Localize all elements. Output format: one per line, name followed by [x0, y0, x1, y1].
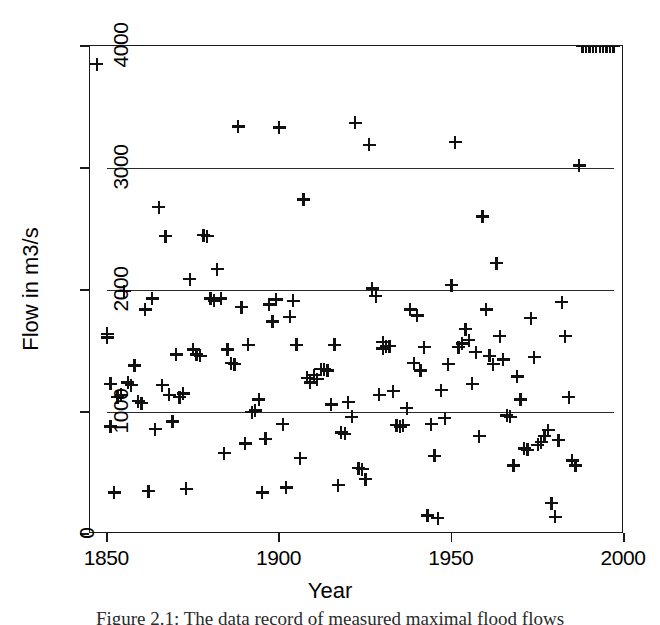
- scatter-point: [214, 292, 227, 305]
- scatter-point: [352, 462, 365, 475]
- scatter-point: [173, 391, 186, 404]
- scatter-point: [321, 364, 334, 377]
- scatter-point: [228, 358, 241, 371]
- x-axis-title: Year: [0, 578, 660, 604]
- scatter-point: [600, 46, 613, 53]
- scatter-point: [121, 376, 134, 389]
- scatter-point: [318, 363, 331, 376]
- scatter-point: [483, 349, 496, 362]
- scatter-point: [462, 334, 475, 347]
- scatter-point: [490, 257, 503, 270]
- scatter-point: [404, 303, 417, 316]
- y-axis-tick-label: 4000: [109, 45, 133, 90]
- scatter-point: [438, 412, 451, 425]
- scatter-point: [208, 294, 221, 307]
- y-axis-title: Flow in m3/s: [14, 45, 48, 533]
- scatter-point: [559, 330, 572, 343]
- scatter-point: [294, 452, 307, 465]
- y-axis-tick-label: 2000: [109, 289, 133, 334]
- scatter-point: [177, 387, 190, 400]
- scatter-point: [266, 315, 279, 328]
- x-axis-tick: [623, 533, 625, 542]
- scatter-point: [239, 437, 252, 450]
- scatter-point: [376, 336, 389, 349]
- scatter-point: [132, 395, 145, 408]
- scatter-point: [194, 349, 207, 362]
- scatter-point: [338, 427, 351, 440]
- scatter-point: [407, 357, 420, 370]
- scatter-point: [280, 481, 293, 494]
- y-axis-tick-label: 1000: [109, 411, 133, 456]
- scatter-point: [366, 282, 379, 295]
- scatter-point: [197, 229, 210, 242]
- scatter-point: [301, 371, 314, 384]
- scatter-point: [580, 46, 593, 53]
- scatter-point: [542, 424, 555, 437]
- scatter-point: [504, 410, 517, 423]
- scatter-point: [245, 406, 258, 419]
- scatter-point: [511, 370, 524, 383]
- scatter-point: [311, 373, 324, 386]
- scatter-point: [528, 351, 541, 364]
- scatter-point: [545, 497, 558, 510]
- scatter-point: [128, 359, 141, 372]
- scatter-point: [263, 298, 276, 311]
- y-axis-tick-label: 3000: [109, 167, 133, 212]
- scatter-point: [549, 510, 562, 523]
- scatter-point: [487, 358, 500, 371]
- scatter-point: [514, 393, 527, 406]
- y-axis-tick: [80, 167, 89, 169]
- x-axis-tick: [451, 533, 453, 542]
- scatter-point: [387, 385, 400, 398]
- scatter-point: [473, 430, 486, 443]
- scatter-point: [562, 391, 575, 404]
- scatter-point: [597, 46, 610, 53]
- scatter-point: [345, 410, 358, 423]
- scatter-point: [211, 263, 224, 276]
- scatter-point: [204, 292, 217, 305]
- scatter-point: [170, 348, 183, 361]
- scatter-point: [235, 301, 248, 314]
- scatter-point: [428, 449, 441, 462]
- scatter-point: [555, 296, 568, 309]
- scatter-point: [442, 358, 455, 371]
- scatter-point: [421, 509, 434, 522]
- scatter-point: [249, 404, 262, 417]
- y-axis-tick: [80, 411, 89, 413]
- scatter-point: [276, 418, 289, 431]
- scatter-point: [376, 342, 389, 355]
- scatter-point: [287, 294, 300, 307]
- scatter-point: [159, 230, 172, 243]
- scatter-point: [314, 363, 327, 376]
- x-axis-tick-label: 1900: [256, 546, 301, 570]
- scatter-point: [369, 290, 382, 303]
- scatter-point: [497, 353, 510, 366]
- scatter-point: [152, 201, 165, 214]
- scatter-point: [521, 443, 534, 456]
- scatter-point: [283, 310, 296, 323]
- scatter-point: [273, 121, 286, 134]
- scatter-point: [480, 303, 493, 316]
- scatter-point: [139, 303, 152, 316]
- scatter-point: [242, 338, 255, 351]
- scatter-point: [535, 436, 548, 449]
- scatter-point: [297, 193, 310, 206]
- scatter-point: [493, 330, 506, 343]
- scatter-point: [538, 430, 551, 443]
- scatter-point: [335, 426, 348, 439]
- scatter-point: [383, 340, 396, 353]
- scatter-point: [142, 485, 155, 498]
- scatter-point: [445, 279, 458, 292]
- scatter-point-layer: [90, 46, 622, 532]
- scatter-point: [435, 384, 448, 397]
- scatter-point: [400, 402, 413, 415]
- scatter-point: [349, 116, 362, 129]
- scatter-point: [304, 376, 317, 389]
- scatter-point: [166, 415, 179, 428]
- x-axis-tick-label: 2000: [600, 546, 645, 570]
- scatter-point: [342, 396, 355, 409]
- scatter-point: [414, 364, 427, 377]
- scatter-point: [225, 357, 238, 370]
- scatter-point: [252, 393, 265, 406]
- y-axis-tick-label: 0: [75, 533, 99, 544]
